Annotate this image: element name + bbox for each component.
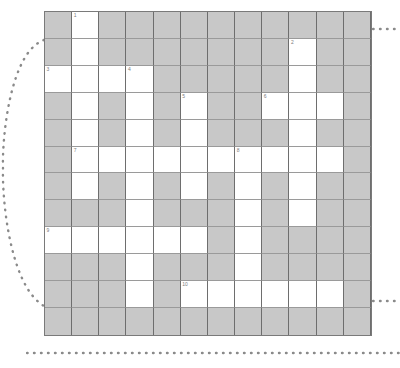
crossword-cell-open[interactable] xyxy=(289,147,316,174)
crossword-cell-open[interactable] xyxy=(72,39,99,66)
crossword-cell-open[interactable] xyxy=(126,227,153,254)
crossword-cell-block xyxy=(181,254,208,281)
clue-number: 7 xyxy=(74,147,77,154)
crossword-cell-block xyxy=(344,120,371,147)
crossword-cell-open[interactable]: 8 xyxy=(235,147,262,174)
clue-number: 8 xyxy=(237,147,240,154)
crossword-cell-block xyxy=(154,39,181,66)
clue-number: 4 xyxy=(128,66,131,73)
crossword-cell-open[interactable] xyxy=(126,147,153,174)
crossword-cell-open[interactable]: 6 xyxy=(262,93,289,120)
crossword-cell-open[interactable]: 2 xyxy=(289,39,316,66)
crossword-cell-open[interactable] xyxy=(289,120,316,147)
crossword-cell-block xyxy=(344,147,371,174)
crossword-cell-block xyxy=(317,120,344,147)
crossword-cell-open[interactable] xyxy=(72,173,99,200)
crossword-cell-block xyxy=(181,308,208,335)
crossword-cell-block xyxy=(99,173,126,200)
crossword-cell-block xyxy=(317,200,344,227)
crossword-cell-block xyxy=(208,93,235,120)
crossword-cell-block xyxy=(262,308,289,335)
crossword-cell-open[interactable] xyxy=(235,173,262,200)
crossword-cell-block xyxy=(262,173,289,200)
crossword-cell-open[interactable] xyxy=(99,227,126,254)
crossword-cell-open[interactable] xyxy=(99,66,126,93)
crossword-cell-open[interactable]: 7 xyxy=(72,147,99,174)
crossword-cell-open[interactable] xyxy=(262,147,289,174)
crossword-cell-open[interactable] xyxy=(317,281,344,308)
crossword-cell-open[interactable]: 4 xyxy=(126,66,153,93)
dotted-line-top-right-icon xyxy=(372,24,400,34)
clue-number: 9 xyxy=(47,227,50,234)
crossword-cell-open[interactable] xyxy=(317,93,344,120)
dotted-line-bottom-icon xyxy=(26,348,400,358)
crossword-cell-block xyxy=(344,227,371,254)
crossword-cell-open[interactable] xyxy=(154,227,181,254)
crossword-cell-open[interactable] xyxy=(262,281,289,308)
crossword-cell-block xyxy=(45,254,72,281)
crossword-grid[interactable]: 12345678910 xyxy=(45,12,371,335)
crossword-cell-block xyxy=(181,39,208,66)
crossword-cell-block xyxy=(45,281,72,308)
crossword-cell-block xyxy=(289,12,316,39)
crossword-cell-open[interactable] xyxy=(289,281,316,308)
crossword-cell-open[interactable] xyxy=(99,147,126,174)
crossword-cell-open[interactable] xyxy=(72,93,99,120)
crossword-cell-block xyxy=(154,120,181,147)
crossword-cell-open[interactable] xyxy=(235,281,262,308)
crossword-cell-open[interactable] xyxy=(289,93,316,120)
crossword-cell-block xyxy=(99,200,126,227)
crossword-cell-block xyxy=(317,173,344,200)
crossword-cell-open[interactable]: 5 xyxy=(181,93,208,120)
crossword-cell-block xyxy=(154,66,181,93)
crossword-cell-open[interactable] xyxy=(126,120,153,147)
crossword-cell-open[interactable] xyxy=(235,227,262,254)
crossword-cell-block xyxy=(235,39,262,66)
crossword-cell-block xyxy=(72,308,99,335)
crossword-cell-block xyxy=(344,39,371,66)
crossword-cell-open[interactable] xyxy=(72,66,99,93)
crossword-cell-open[interactable] xyxy=(181,227,208,254)
crossword-cell-block xyxy=(289,254,316,281)
crossword-cell-open[interactable] xyxy=(235,200,262,227)
clue-number: 6 xyxy=(264,93,267,100)
crossword-cell-open[interactable]: 9 xyxy=(45,227,72,254)
crossword-cell-block xyxy=(154,308,181,335)
crossword-cell-open[interactable] xyxy=(289,200,316,227)
crossword-cell-open[interactable] xyxy=(181,120,208,147)
crossword-cell-open[interactable]: 3 xyxy=(45,66,72,93)
clue-number: 5 xyxy=(182,93,185,100)
crossword-cell-open[interactable] xyxy=(289,173,316,200)
crossword-cell-block xyxy=(262,120,289,147)
crossword-cell-open[interactable] xyxy=(126,93,153,120)
crossword-cell-block xyxy=(126,39,153,66)
crossword-cell-block xyxy=(208,200,235,227)
crossword-cell-block xyxy=(317,12,344,39)
crossword-cell-open[interactable] xyxy=(317,147,344,174)
crossword-grid-border: 12345678910 xyxy=(44,11,372,336)
crossword-cell-block xyxy=(344,66,371,93)
crossword-cell-block xyxy=(181,200,208,227)
crossword-cell-open[interactable] xyxy=(235,254,262,281)
crossword-cell-open[interactable] xyxy=(72,120,99,147)
crossword-cell-open[interactable] xyxy=(181,147,208,174)
crossword-cell-open[interactable] xyxy=(126,281,153,308)
crossword-cell-open[interactable]: 10 xyxy=(181,281,208,308)
crossword-cell-block xyxy=(262,227,289,254)
crossword-cell-open[interactable] xyxy=(289,66,316,93)
crossword-cell-block xyxy=(289,308,316,335)
crossword-cell-block xyxy=(45,12,72,39)
crossword-cell-open[interactable] xyxy=(181,173,208,200)
crossword-cell-open[interactable] xyxy=(208,281,235,308)
crossword-cell-open[interactable] xyxy=(126,173,153,200)
crossword-cell-open[interactable] xyxy=(154,147,181,174)
crossword-cell-open[interactable] xyxy=(126,200,153,227)
crossword-cell-open[interactable] xyxy=(126,254,153,281)
crossword-cell-block xyxy=(45,200,72,227)
crossword-cell-open[interactable] xyxy=(208,147,235,174)
crossword-cell-open[interactable]: 1 xyxy=(72,12,99,39)
crossword-cell-block xyxy=(235,12,262,39)
dotted-line-mid-right-icon xyxy=(372,296,400,306)
crossword-cell-open[interactable] xyxy=(72,227,99,254)
crossword-cell-block xyxy=(208,66,235,93)
